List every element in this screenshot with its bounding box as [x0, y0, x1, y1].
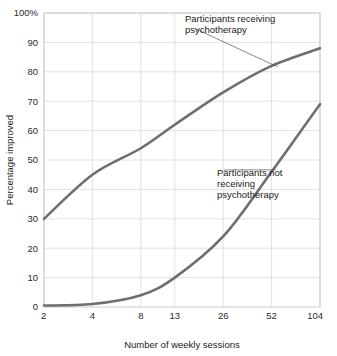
y-tick-label: 80	[27, 66, 38, 77]
x-axis-title: Number of weekly sessions	[124, 339, 240, 350]
y-tick-label: 90	[27, 37, 38, 48]
y-tick-label: 100%	[14, 7, 39, 18]
percentage-improved-line-chart: 0102030405060708090100% 248132652104 Par…	[0, 0, 337, 356]
y-tick-label: 50	[27, 154, 38, 165]
y-tick-label: 30	[27, 213, 38, 224]
x-tick-label: 104	[307, 310, 323, 321]
chart-root: 0102030405060708090100% 248132652104 Par…	[0, 0, 337, 356]
x-tick-label: 8	[138, 310, 143, 321]
x-tick-label: 26	[218, 310, 229, 321]
annotation-lower: Participants notreceivingpsychotherapy	[217, 167, 283, 200]
x-tick-label: 4	[90, 310, 95, 321]
annotation-lower-line: Participants not	[217, 167, 283, 178]
x-tick-label: 13	[169, 310, 180, 321]
annotation-upper-line: Participants receiving	[185, 13, 275, 24]
y-tick-label: 10	[27, 272, 38, 283]
x-tick-label: 2	[41, 310, 46, 321]
x-tick-label: 52	[266, 310, 277, 321]
annotation-lower-text: Participants notreceivingpsychotherapy	[217, 167, 283, 200]
annotation-upper: Participants receivingpsychotherapy	[185, 13, 278, 67]
series-line-1	[44, 104, 320, 305]
y-axis-title: Percentage improved	[4, 115, 15, 205]
annotation-upper-line: psychotherapy	[185, 24, 247, 35]
y-axis-tick-labels: 0102030405060708090100%	[14, 7, 39, 312]
y-tick-label: 40	[27, 184, 38, 195]
y-tick-label: 70	[27, 96, 38, 107]
y-tick-label: 20	[27, 243, 38, 254]
x-axis-tick-labels: 248132652104	[41, 310, 323, 321]
annotation-upper-text: Participants receivingpsychotherapy	[185, 13, 275, 35]
y-tick-label: 60	[27, 125, 38, 136]
y-tick-label: 0	[33, 301, 38, 312]
annotation-lower-line: receiving	[217, 178, 255, 189]
annotation-lower-line: psychotherapy	[217, 189, 279, 200]
